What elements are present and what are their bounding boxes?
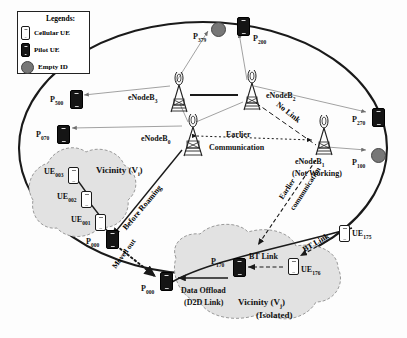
enodeb3-label: eNodeB3: [128, 94, 157, 104]
node-UE002-sub: 002: [68, 197, 76, 203]
legend-label-cellular-ue: Cellular UE: [34, 29, 70, 37]
enodeb3-sub: 3: [155, 98, 158, 104]
vicinity-vi-label: Vicinity (Vi): [96, 166, 143, 177]
enodeb2-sub: 2: [293, 96, 296, 102]
node-P200-label: P200: [253, 35, 266, 45]
earlier-communication-label-line1: Earlier: [226, 131, 250, 139]
earlier-communication-link: [197, 136, 312, 140]
node-UE002-label: UE002: [57, 193, 76, 203]
node-UE175-label: UE175: [352, 230, 371, 240]
node-P270-label: P270: [352, 116, 365, 126]
node-UE001-sub: 001: [82, 220, 90, 226]
node-P500-sub: 500: [55, 100, 63, 106]
legend-row-pilot-ue: Pilot UE: [21, 42, 86, 58]
node-UE001-label: UE001: [71, 216, 90, 226]
enodeb1-tower-icon: [310, 115, 338, 157]
cellular-ue-icon: [21, 26, 30, 40]
node-P000b-sub: 000: [146, 289, 154, 295]
vicinity-vj-isolated-label: (Isolated): [256, 311, 293, 320]
node-P270-glyph: [372, 108, 385, 127]
enodeb2-tower-icon: [237, 70, 267, 112]
node-P170-sub: 170: [216, 262, 224, 268]
diagram-canvas: Legends: Cellular UE Pilot UE Empty ID P…: [0, 0, 407, 338]
legend-row-empty-id: Empty ID: [21, 59, 86, 75]
vicinity-vi-close: ): [140, 165, 143, 175]
node-P070-glyph: [57, 125, 70, 144]
node-P500-glyph: [70, 90, 83, 109]
enodeb3-tower-icon: [164, 72, 194, 114]
legend-label-empty-id: Empty ID: [38, 63, 68, 71]
node-P000b-glyph: [160, 272, 173, 291]
node-UE003-sub: 003: [55, 172, 63, 178]
data-offload-label-line1: Data Offload: [181, 287, 226, 295]
earlier-communication-label-line2: Communication: [209, 144, 264, 152]
legend-title: Legends:: [35, 14, 86, 23]
node-UE003-label: UE003: [44, 168, 63, 178]
node-UE176-label: UE176: [301, 266, 320, 276]
node-P000a-glyph: [106, 230, 119, 249]
node-P000b-label: P000: [141, 285, 154, 295]
node-P200-sub: 200: [258, 39, 266, 45]
vicinity-vj-close: ): [282, 297, 285, 307]
node-P070-sub: 070: [41, 135, 49, 141]
node-UE001-glyph: [95, 214, 106, 231]
node-UE003-glyph: [68, 167, 79, 184]
enodeb0-tower-icon: [178, 114, 208, 158]
legend-box: Legends: Cellular UE Pilot UE Empty ID: [17, 11, 90, 74]
node-P100-sub: 100: [357, 163, 365, 169]
enodeb1-sub: 1: [322, 162, 325, 168]
pilot-ue-icon: [21, 43, 30, 57]
node-P000a-label: P000: [86, 238, 99, 248]
node-P379-glyph: [211, 22, 226, 37]
enodeb1-label: eNodeB1: [295, 158, 324, 168]
vicinity-vi-text: Vicinity (V: [96, 165, 138, 175]
node-P000a-sub: 000: [91, 242, 99, 248]
node-P070-label: P070: [36, 131, 49, 141]
node-P379-label: P379: [193, 33, 206, 43]
node-P170-label: P170: [211, 258, 224, 268]
bt-link-label-1: BT Link: [249, 253, 278, 261]
node-UE175-sub: 175: [363, 234, 371, 240]
vicinity-vj-label: Vicinity (Vj): [238, 298, 285, 309]
node-P100-label: P100: [352, 159, 365, 169]
node-P500-label: P500: [50, 96, 63, 106]
enodeb0-sub: 0: [168, 139, 171, 145]
legend-row-cellular-ue: Cellular UE: [21, 25, 86, 41]
legend-label-pilot-ue: Pilot UE: [34, 46, 59, 54]
node-UE176-sub: 176: [312, 270, 320, 276]
node-UE176-glyph: [288, 258, 299, 275]
data-offload-label-line2: (D2D Link): [184, 299, 223, 307]
node-P100-glyph: [371, 148, 386, 163]
node-P200-glyph: [237, 17, 250, 36]
node-P379-sub: 379: [198, 37, 206, 43]
link-enb0-p070: [72, 126, 182, 128]
node-UE002-glyph: [81, 191, 92, 208]
node-P270-sub: 270: [357, 120, 365, 126]
vicinity-vj-text: Vicinity (V: [238, 297, 280, 307]
node-P170-glyph: [233, 258, 246, 277]
empty-id-icon: [21, 61, 34, 74]
node-UE175-glyph: [339, 225, 350, 242]
enodeb0-label: eNodeB0: [141, 135, 170, 145]
